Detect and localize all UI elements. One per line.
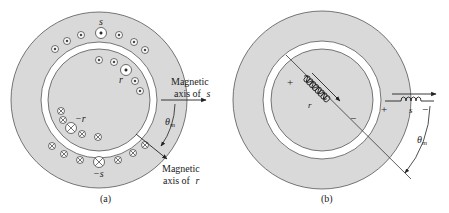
axis-s-text: axis of [174, 88, 202, 99]
machine-diagram: s r −r −s [0, 0, 449, 213]
rotor-coil-label: r [308, 100, 312, 110]
panel-b: r + − + s − θm (b) [233, 11, 436, 205]
rotor-minus: − [350, 112, 356, 124]
rotor-neg-label: −r [75, 113, 86, 124]
stator-plus: + [381, 103, 387, 115]
rotor-b [271, 49, 373, 151]
axis-s-label-line1: Magnetic [171, 76, 209, 87]
theta-sub-b: m [422, 139, 427, 147]
caption-a: (a) [100, 193, 111, 205]
axis-s-label-line2: axis of s [174, 88, 210, 99]
axis-r-label-line2: axis of r [163, 175, 199, 186]
axis-r-label-line1: Magnetic [162, 163, 200, 174]
rotor-label: r [119, 74, 123, 85]
caption-b: (b) [321, 193, 333, 205]
axis-r-var: r [195, 175, 199, 186]
axis-r-text: axis of [163, 175, 191, 186]
axis-s-var: s [206, 88, 210, 99]
rotor-plus: + [287, 76, 293, 88]
stator-minus: − [422, 103, 428, 115]
theta-sub: m [170, 121, 175, 129]
stator-label: s [99, 16, 103, 27]
stator-neg-label: −s [93, 168, 104, 179]
panel-a: s r −r −s [11, 12, 210, 205]
stator-coil-label: s [409, 105, 413, 115]
